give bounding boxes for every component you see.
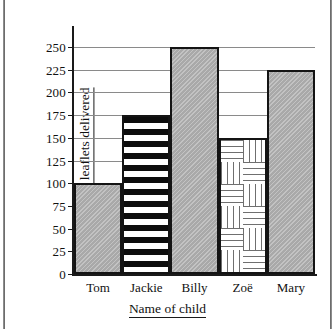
bar-jackie bbox=[122, 115, 170, 274]
bar-group bbox=[74, 38, 315, 274]
weave-cell bbox=[243, 250, 265, 272]
y-tick-label-125: 125 bbox=[46, 154, 66, 167]
y-tick-label-150: 150 bbox=[46, 131, 66, 144]
weave-cell bbox=[221, 162, 243, 184]
weave-cell bbox=[243, 228, 265, 250]
weave-cell bbox=[243, 184, 265, 206]
y-tick-label-100: 100 bbox=[46, 177, 66, 190]
y-tick-label-25: 25 bbox=[53, 245, 66, 258]
y-tick-label-75: 75 bbox=[53, 199, 66, 212]
y-tick-label-200: 200 bbox=[46, 86, 66, 99]
weave-cell bbox=[243, 162, 265, 184]
weave-cell bbox=[221, 206, 243, 228]
weave-cell bbox=[243, 140, 265, 162]
weave-cell bbox=[221, 184, 243, 206]
y-tick-label-175: 175 bbox=[46, 109, 66, 122]
weave-cell bbox=[243, 206, 265, 228]
x-tick-label-zo: Zoë bbox=[233, 281, 253, 294]
y-tick-label-250: 250 bbox=[46, 41, 66, 54]
weave-cell bbox=[221, 140, 243, 162]
weave-cell bbox=[221, 250, 243, 272]
bar-billy bbox=[170, 47, 218, 274]
y-tick-label-50: 50 bbox=[53, 222, 66, 235]
x-axis-title-text: Name of child bbox=[129, 301, 206, 318]
x-tick-label-jackie: Jackie bbox=[130, 281, 162, 294]
y-tick-0 bbox=[68, 274, 74, 275]
x-tick-label-mary: Mary bbox=[277, 281, 305, 294]
bar-tom bbox=[74, 183, 122, 274]
y-tick-label-0: 0 bbox=[59, 268, 66, 281]
y-tick-label-225: 225 bbox=[46, 63, 66, 76]
page-edge-rule-left bbox=[3, 0, 5, 329]
weave-cell bbox=[221, 228, 243, 250]
bar-mary bbox=[267, 70, 315, 274]
page-edge-rule-right bbox=[330, 0, 332, 329]
plot-area: 0255075100125150175200225250 TomJackieBi… bbox=[74, 38, 315, 274]
x-tick-label-billy: Billy bbox=[181, 281, 207, 294]
x-tick-label-tom: Tom bbox=[86, 281, 110, 294]
basket-weave-pattern bbox=[221, 140, 265, 272]
x-axis-title: Name of child bbox=[0, 301, 335, 317]
x-axis-line bbox=[72, 274, 317, 276]
bar-zo bbox=[219, 138, 267, 274]
bar-chart-figure: Number of leaflets delivered 02550751001… bbox=[0, 0, 335, 329]
